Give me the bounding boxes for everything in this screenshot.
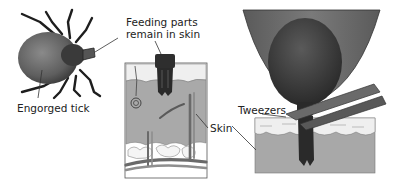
skin-label: Skin <box>210 122 232 134</box>
feeding-parts-label-line1: Feeding parts <box>126 16 198 28</box>
engorged-tick-label: Engorged tick <box>17 102 90 114</box>
tweezers-label: Tweezers <box>238 104 286 116</box>
engorged-tick-icon <box>18 10 118 98</box>
embedded-mouthparts-icon <box>155 54 175 96</box>
tweezers-removal-illustration <box>232 10 386 173</box>
skin-cross-section <box>125 41 208 178</box>
feeding-parts-label-line2: remain in skin <box>126 28 200 40</box>
